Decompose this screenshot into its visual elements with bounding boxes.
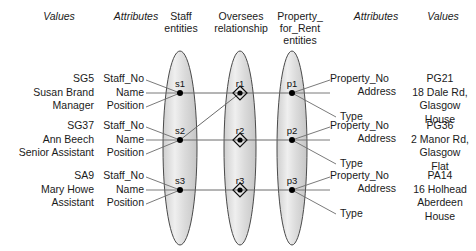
- node-label-p2: p2: [281, 125, 303, 136]
- header-property-entities: Property_ for_Rent entities: [272, 10, 328, 46]
- node-label-r1: r1: [229, 78, 251, 89]
- header-values-right: Values: [415, 10, 471, 22]
- node-label-s3: s3: [169, 175, 191, 186]
- prop-3-values: PA14 16 Holhead Aberdeen House: [404, 169, 476, 223]
- prop-2-values: PG36 2 Manor Rd, Glasgow Flat: [404, 119, 476, 173]
- prop-2-attr-address: Address: [330, 132, 396, 146]
- staff-1-values: SG5 Susan Brand Manager: [10, 72, 94, 113]
- node-label-p1: p1: [281, 78, 303, 89]
- staff-1-attributes: Staff_No Name Position: [98, 72, 144, 113]
- prop-3-attr-property-no: Property_No: [330, 169, 396, 183]
- prop-1-attr-address: Address: [330, 85, 396, 99]
- network-model-diagram: Values Attributes Staff entities Oversee…: [0, 0, 476, 251]
- header-staff-entities: Staff entities: [156, 10, 206, 34]
- node-label-r3: r3: [229, 175, 251, 186]
- prop-2-attr-property-no: Property_No: [330, 119, 396, 133]
- header-oversees-relationship: Oversees relationship: [205, 10, 277, 34]
- node-label-s2: s2: [169, 125, 191, 136]
- node-label-r2: r2: [229, 125, 251, 136]
- staff-2-attributes: Staff_No Name Position: [98, 119, 144, 160]
- prop-1-values: PG21 18 Dale Rd, Glasgow House: [404, 72, 476, 126]
- header-values-left: Values: [24, 10, 94, 22]
- staff-3-values: SA9 Mary Howe Assistant: [10, 169, 94, 210]
- header-attributes-right: Attributes: [340, 10, 412, 22]
- node-label-p3: p3: [281, 175, 303, 186]
- staff-3-attributes: Staff_No Name Position: [98, 169, 144, 210]
- node-label-s1: s1: [169, 78, 191, 89]
- prop-3-attr-address: Address: [330, 182, 396, 196]
- prop-3-attr-type: Type: [330, 207, 396, 221]
- staff-2-values: SG37 Ann Beech Senior Assistant: [10, 119, 94, 160]
- prop-1-attr-property-no: Property_No: [330, 72, 396, 86]
